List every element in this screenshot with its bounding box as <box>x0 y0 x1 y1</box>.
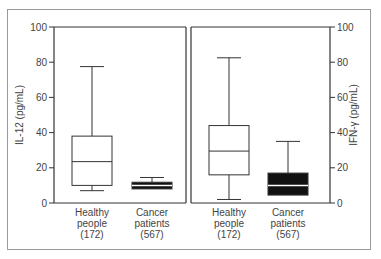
y-tick-label: 0 <box>41 198 47 209</box>
category-label: Cancer <box>136 207 169 218</box>
y-tick-label: 0 <box>337 198 343 209</box>
y-tick-label: 100 <box>337 22 354 33</box>
y-tick-label: 60 <box>337 92 349 103</box>
category-label: patients <box>134 218 169 229</box>
iqr-box <box>209 126 249 175</box>
y-tick-label: 20 <box>36 162 48 173</box>
y-tick-label: 60 <box>36 92 48 103</box>
category-label: (567) <box>276 229 299 240</box>
y-axis-title: IL-12 (pg/mL) <box>14 85 25 145</box>
iqr-box <box>72 136 112 185</box>
category-label: people <box>77 218 107 229</box>
category-label: Healthy <box>75 207 109 218</box>
category-label: (172) <box>80 229 103 240</box>
category-label: Healthy <box>212 207 246 218</box>
y-axis-title: IFN-γ (pg/mL) <box>348 84 359 146</box>
y-tick-label: 80 <box>36 57 48 68</box>
healthy-people-box <box>72 67 112 191</box>
category-label: patients <box>270 218 305 229</box>
cancer-patients-box <box>268 141 308 195</box>
il12-panel: 020406080100IL-12 (pg/mL)Healthypeople(1… <box>14 22 186 241</box>
iqr-box <box>268 173 308 195</box>
category-label: (172) <box>217 229 240 240</box>
box-plot-figure: 020406080100IL-12 (pg/mL)Healthypeople(1… <box>0 0 381 259</box>
y-tick-label: 100 <box>30 22 47 33</box>
category-label: Cancer <box>272 207 305 218</box>
y-tick-label: 20 <box>337 162 349 173</box>
y-tick-label: 40 <box>337 127 349 138</box>
category-label: people <box>214 218 244 229</box>
cancer-patients-box <box>132 177 172 188</box>
healthy-people-box <box>209 58 249 200</box>
category-label: (567) <box>140 229 163 240</box>
y-tick-label: 80 <box>337 57 349 68</box>
y-tick-label: 40 <box>36 127 48 138</box>
ifn-gamma-panel: 020406080100IFN-γ (pg/mL)Healthypeople(1… <box>191 22 359 241</box>
